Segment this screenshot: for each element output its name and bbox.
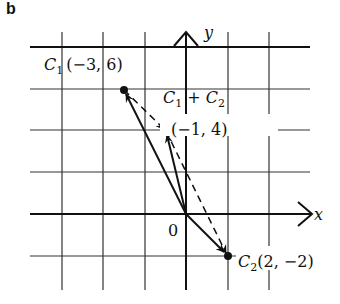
label-c1-plus-c2-name: C1 + C2 <box>163 88 225 110</box>
origin-label: 0 <box>168 221 178 240</box>
point-c2 <box>224 252 232 260</box>
point-c1 <box>120 86 128 94</box>
vector-addition-diagram: x y 0 C1(−3, 6) C1 + C2 (−1, 4) C2(2, −2… <box>0 0 340 304</box>
label-c1: C1(−3, 6) <box>44 55 123 77</box>
x-axis-label: x <box>314 205 323 224</box>
vector-c1-plus-c2 <box>167 135 186 214</box>
vector-c2 <box>186 214 224 252</box>
dashed-c1-to-sum <box>124 90 164 129</box>
label-c2: C2(2, −2) <box>238 252 314 274</box>
y-axis-label: y <box>203 23 214 42</box>
label-c1-plus-c2-coords: (−1, 4) <box>171 120 227 139</box>
